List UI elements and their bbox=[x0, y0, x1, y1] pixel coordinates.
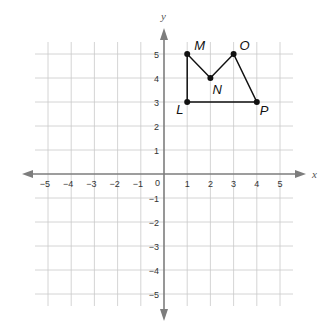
vertex-point-o bbox=[231, 51, 237, 57]
vertex-label-p: P bbox=[260, 103, 269, 118]
y-tick-label: −3 bbox=[149, 242, 159, 252]
x-tick-label: 4 bbox=[254, 179, 259, 189]
vertex-label-l: L bbox=[176, 102, 183, 117]
y-tick-label: −1 bbox=[149, 194, 159, 204]
x-tick-label: −2 bbox=[109, 179, 119, 189]
y-tick-label: 4 bbox=[154, 74, 159, 84]
axes bbox=[22, 28, 306, 321]
vertex-point-l bbox=[184, 99, 190, 105]
y-tick-label: 2 bbox=[154, 122, 159, 132]
vertex-label-n: N bbox=[212, 82, 222, 97]
y-tick-label: 3 bbox=[154, 98, 159, 108]
x-axis-left-arrow-icon bbox=[22, 170, 33, 178]
coordinate-plane: −5−4−3−2−11234554321−1−2−3−4−5 LMNOP x y… bbox=[0, 0, 331, 336]
y-tick-label: −5 bbox=[149, 290, 159, 300]
origin-label: 0 bbox=[155, 178, 160, 188]
x-tick-label: −4 bbox=[63, 179, 73, 189]
vertex-point-m bbox=[184, 51, 190, 57]
y-axis-up-arrow-icon bbox=[160, 28, 168, 40]
vertex-label-o: O bbox=[240, 38, 250, 53]
x-tick-label: 2 bbox=[208, 179, 213, 189]
y-axis-label: y bbox=[160, 10, 166, 22]
y-axis-down-arrow-icon bbox=[160, 309, 168, 321]
x-axis-right-arrow-icon bbox=[295, 170, 306, 178]
y-tick-label: −4 bbox=[149, 266, 159, 276]
x-tick-label: 5 bbox=[277, 179, 282, 189]
y-tick-label: 1 bbox=[154, 146, 159, 156]
x-axis-label: x bbox=[311, 168, 317, 180]
vertex-point-n bbox=[207, 75, 213, 81]
y-tick-label: 5 bbox=[154, 50, 159, 60]
x-tick-label: −1 bbox=[133, 179, 143, 189]
vertex-label-m: M bbox=[194, 38, 205, 53]
x-tick-label: −5 bbox=[40, 179, 50, 189]
y-tick-label: −2 bbox=[149, 218, 159, 228]
x-tick-label: 3 bbox=[231, 179, 236, 189]
x-tick-label: 1 bbox=[185, 179, 190, 189]
x-tick-label: −3 bbox=[86, 179, 96, 189]
